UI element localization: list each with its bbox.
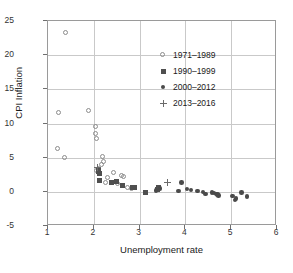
data-point (93, 124, 98, 129)
gridline-horizontal (48, 158, 275, 159)
data-point (234, 196, 239, 201)
data-point (97, 171, 102, 176)
y-tick-label: 15 (0, 84, 14, 93)
x-tick-label: 6 (266, 228, 286, 237)
data-point (121, 174, 126, 179)
data-point (94, 164, 101, 171)
y-axis-title: CPI Inflation (14, 48, 24, 138)
filled-square-icon (157, 66, 169, 76)
data-point (114, 179, 119, 184)
data-point (63, 30, 68, 35)
legend-label: 2013–2016 (173, 99, 216, 108)
legend-item[interactable]: 2000–2012 (157, 79, 216, 95)
x-tick-label: 1 (37, 228, 57, 237)
open-circle-icon (157, 50, 169, 60)
y-tick-label: -5 (0, 221, 14, 230)
data-point (215, 192, 220, 197)
x-tick-mark (276, 225, 277, 229)
x-tick-mark (47, 225, 48, 229)
x-tick-mark (139, 225, 140, 229)
plus-icon (157, 98, 169, 108)
data-point (143, 190, 148, 195)
data-point (189, 188, 194, 193)
data-point (109, 180, 114, 185)
y-tick-label: 25 (0, 16, 14, 25)
data-point (164, 179, 171, 186)
data-point (111, 170, 116, 175)
legend-item[interactable]: 2013–2016 (157, 95, 216, 111)
data-point (97, 178, 102, 183)
x-tick-mark (184, 225, 185, 229)
x-tick-mark (230, 225, 231, 229)
filled-circle-icon (157, 82, 169, 92)
y-tick-label: 20 (0, 50, 14, 59)
legend-item[interactable]: 1971–1989 (157, 47, 216, 63)
x-tick-mark (93, 225, 94, 229)
x-tick-label: 5 (220, 228, 240, 237)
x-tick-label: 4 (174, 228, 194, 237)
data-point (195, 189, 200, 194)
scatter-chart: CPI Inflation 2520151050-5 Unemployment … (0, 0, 293, 273)
data-point (158, 186, 163, 191)
data-point (62, 155, 67, 160)
x-axis-title: Unemployment rate (47, 245, 276, 255)
gridline-vertical (140, 21, 141, 224)
legend-label: 1990–1999 (173, 67, 216, 76)
data-point (103, 180, 108, 185)
legend-item[interactable]: 1990–1999 (157, 63, 216, 79)
data-point (179, 180, 184, 185)
data-point (239, 190, 244, 195)
data-point (100, 154, 105, 159)
x-tick-label: 2 (83, 228, 103, 237)
legend-label: 2000–2012 (173, 83, 216, 92)
data-point (245, 194, 250, 199)
gridline-vertical (94, 21, 95, 224)
x-tick-label: 3 (129, 228, 149, 237)
legend: 1971–19891990–19992000–20122013–2016 (157, 47, 216, 111)
gridline-horizontal (48, 124, 275, 125)
data-point (94, 136, 99, 141)
y-tick-label: 10 (0, 119, 14, 128)
legend-label: 1971–1989 (173, 51, 216, 60)
data-point (56, 110, 61, 115)
data-point (203, 192, 208, 197)
data-point (132, 185, 137, 190)
y-tick-label: 5 (0, 153, 14, 162)
data-point (120, 183, 125, 188)
data-point (86, 108, 91, 113)
y-tick-label: 0 (0, 187, 14, 196)
data-point (55, 146, 60, 151)
